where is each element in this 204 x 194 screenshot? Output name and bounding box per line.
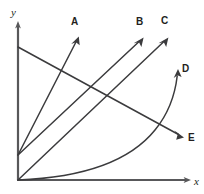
curve-B-line (18, 41, 139, 155)
curve-label-C: C (161, 16, 168, 26)
y-axis-label: y (11, 7, 16, 18)
coordinate-diagram: A B C D E x y (0, 0, 204, 194)
curve-label-B: B (136, 17, 143, 27)
curve-D-path (18, 76, 177, 180)
x-axis-label: x (194, 176, 199, 187)
diagram-canvas (0, 0, 204, 194)
curve-label-D: D (182, 64, 189, 74)
curve-E-arrowhead (174, 131, 184, 140)
curve-A-line (18, 42, 76, 156)
curve-label-A: A (71, 17, 78, 27)
curve-label-E: E (188, 133, 195, 143)
curve-E-line (18, 47, 179, 135)
